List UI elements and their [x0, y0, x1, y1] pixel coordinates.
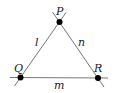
- triangle-diagram: P Q R l m n: [0, 0, 114, 93]
- label-R: R: [93, 62, 102, 75]
- label-n: n: [78, 36, 85, 49]
- label-m: m: [54, 79, 64, 92]
- vertex-R: [95, 75, 101, 81]
- label-Q: Q: [14, 62, 23, 75]
- edge-m: [10, 78, 108, 79]
- vertex-P: [57, 19, 63, 25]
- vertex-Q: [18, 75, 24, 81]
- label-P: P: [55, 5, 64, 18]
- label-l: l: [35, 36, 39, 49]
